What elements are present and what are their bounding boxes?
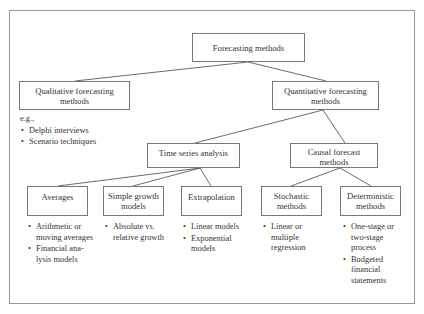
node-label: Forecasting methods [213,43,284,53]
node-extrapolation: Extrapolation [181,186,242,216]
note-line: Linear models [191,222,239,231]
node-label: Extrapolation [188,192,235,215]
node-label-line1: Qualitative forecasting [35,86,114,96]
edge-timeseries-extrapolation [200,168,211,186]
edge-quantitative-causal [323,110,345,143]
note-line: One-stage or [351,222,394,231]
edge-timeseries-simplegrowth [133,168,200,186]
note-item: Budgeted financial statements [342,255,414,287]
node-label: Simple growth models [108,191,159,215]
node-averages: Averages [27,186,88,216]
note-line: two-stage [351,233,384,242]
edge-causal-deterministic [340,168,371,186]
note-line: Absolute vs. [113,222,155,231]
example-item: Scenario techniques [20,137,96,148]
node-label-line1: Simple growth [108,191,159,201]
note-line: models [191,244,215,253]
node-label: Deterministic methods [347,191,394,215]
node-label: Quantitative forecasting methods [284,86,367,109]
node-forecasting-methods: Forecasting methods [192,33,305,62]
node-time-series-analysis: Time series analysis [147,143,240,168]
node-label-line2: methods [277,201,306,211]
deterministic-notes: One-stage or two-stage process Budgeted … [342,222,414,287]
qualitative-examples: e.g., Delphi interviews Scenario techniq… [20,114,96,149]
node-label-line2: methods [60,96,89,106]
averages-notes: Arithmetic or moving averages Financial … [27,222,107,266]
edge-quantitative-timeseries [195,110,323,143]
node-label: Stochastic methods [274,191,309,215]
note-item: Linear models [182,222,262,233]
node-label-line1: Causal forecast [308,147,361,157]
node-causal-forecast-methods: Causal forecast methods [290,143,378,168]
note-item: Linear or multiple regression [262,222,337,254]
note-line: Financial ana- [36,244,84,253]
stochastic-notes: Linear or multiple regression [262,222,337,255]
note-line: relative growth [113,233,164,242]
node-label-line2: methods [319,157,348,167]
note-item: Financial ana- lysis models [27,244,107,265]
edge-timeseries-averages [58,168,200,186]
extrapolation-notes: Linear models Exponential models [182,222,262,256]
note-line: regression [271,243,305,252]
note-line: lysis models [36,255,78,264]
node-quantitative-forecasting-methods: Quantitative forecasting methods [272,81,379,110]
examples-intro: e.g., [20,114,96,125]
node-label: Time series analysis [159,148,228,167]
node-qualitative-forecasting-methods: Qualitative forecasting methods [19,81,130,110]
node-deterministic-methods: Deterministic methods [340,186,401,216]
node-label-line2: methods [356,201,385,211]
note-line: financial [351,265,380,274]
note-line: Budgeted [351,255,383,264]
note-line: multiple [271,233,299,242]
note-line: statements [351,276,386,285]
simple-growth-notes: Absolute vs. relative growth [104,222,184,244]
note-line: Linear or [271,222,302,231]
note-item: Absolute vs. relative growth [104,222,184,243]
node-label: Averages [42,192,74,215]
node-label-line1: Quantitative forecasting [284,86,367,96]
node-simple-growth-models: Simple growth models [103,186,164,216]
note-item: One-stage or two-stage process [342,222,414,254]
node-label: Causal forecast methods [308,147,361,167]
node-label-line1: Deterministic [347,191,394,201]
node-label-line2: models [121,201,146,211]
note-line: process [351,243,376,252]
node-label-line2: methods [311,96,340,106]
example-item: Delphi interviews [20,126,96,137]
edge-root-quantitative [248,62,326,81]
note-line: moving averages [36,233,93,242]
note-line: Exponential [191,234,231,243]
node-label: Qualitative forecasting methods [35,86,114,109]
node-label-line1: Stochastic [274,191,309,201]
note-line: Arithmetic or [36,222,81,231]
note-item: Exponential models [182,234,262,255]
node-stochastic-methods: Stochastic methods [261,186,322,216]
note-item: Arithmetic or moving averages [27,222,107,243]
edge-causal-stochastic [291,168,340,186]
edge-root-qualitative [75,62,248,81]
